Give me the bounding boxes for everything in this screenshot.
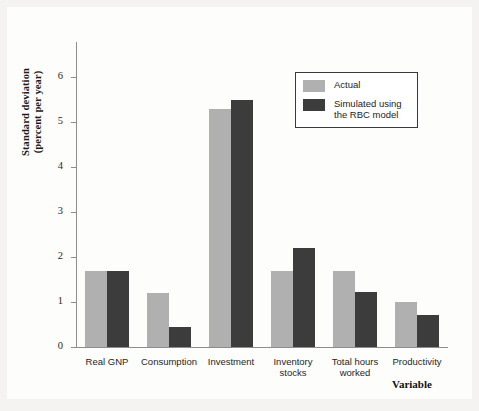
y-axis-tick: 5 [71, 122, 77, 123]
y-axis-tick-label: 2 [58, 250, 63, 261]
chart-legend: Actual Simulated using the RBC model [295, 72, 418, 128]
x-axis-category-label: Inventory stocks [262, 348, 324, 378]
legend-entry-simulated: Simulated using the RBC model [303, 98, 410, 120]
bar-simulated [355, 292, 377, 347]
bar-simulated [293, 248, 315, 347]
y-axis-tick-label: 6 [58, 70, 63, 81]
bar-actual [209, 109, 231, 348]
y-axis-tick: 6 [71, 77, 77, 78]
bar-actual [333, 271, 355, 348]
legend-swatch-simulated [303, 99, 325, 111]
x-axis-category-label: Real GNP [76, 348, 138, 367]
legend-entry-actual: Actual [303, 79, 410, 92]
y-axis-tick-label: 3 [58, 205, 63, 216]
y-axis-tick-label: 5 [58, 115, 63, 126]
y-axis-tick: 1 [71, 302, 77, 303]
y-axis-title-line1: Standard deviation [20, 42, 32, 182]
y-axis-title-line2: (percent per year) [32, 42, 44, 182]
bar-actual [271, 271, 293, 348]
x-axis-category-label: Productivity [386, 348, 448, 367]
bar-simulated [231, 100, 253, 348]
bar-simulated [107, 271, 129, 348]
legend-swatch-actual [303, 80, 325, 92]
bar-actual [147, 293, 169, 347]
figure-page: Standard deviation (percent per year) 01… [0, 0, 479, 411]
y-axis-tick-label: 1 [58, 295, 63, 306]
y-axis-tick: 3 [71, 212, 77, 213]
bar-simulated [417, 315, 439, 347]
y-axis-tick: 4 [71, 167, 77, 168]
legend-label-simulated: Simulated using the RBC model [334, 98, 402, 120]
x-axis-title: Variable [392, 378, 432, 390]
x-axis-category-label: Consumption [138, 348, 200, 367]
y-axis-tick: 2 [71, 257, 77, 258]
bar-chart-figure: Standard deviation (percent per year) 01… [0, 0, 479, 411]
bar-actual [85, 271, 107, 348]
bar-actual [395, 302, 417, 347]
legend-label-actual: Actual [334, 79, 360, 90]
y-axis-tick-label: 4 [58, 160, 63, 171]
bar-simulated [169, 327, 191, 347]
y-axis-title: Standard deviation (percent per year) [20, 42, 44, 182]
y-axis-tick-label: 0 [58, 340, 63, 351]
x-axis-category-label: Total hours worked [324, 348, 386, 378]
x-axis-category-label: Investment [200, 348, 262, 367]
